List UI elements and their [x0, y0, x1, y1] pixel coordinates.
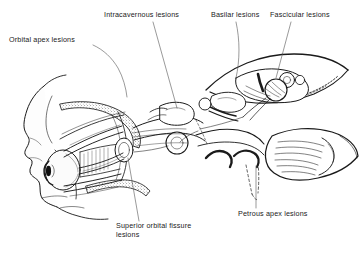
label-intracavernous-lesions: Intracavernous lesions — [104, 11, 179, 20]
label-orbital-apex-lesions: Orbital apex lesions — [9, 36, 75, 45]
petrous-apex — [196, 120, 264, 200]
label-superior-orbital-fissure-lesions: Superior orbital fissure lesions — [116, 222, 191, 239]
optic-nerve — [79, 153, 124, 174]
label-basilar-lesions: Basilar lesions — [211, 11, 260, 20]
head-profile — [24, 75, 108, 219]
label-petrous-apex-lesions: Petrous apex lesions — [238, 210, 308, 219]
cerebellum — [265, 129, 358, 181]
leader-intracavernous — [153, 22, 177, 108]
leader-basilar — [236, 22, 239, 78]
label-fascicular-lesions: Fascicular lesions — [270, 11, 330, 20]
brainstem — [199, 54, 348, 121]
anatomical-figure: Orbital apex lesions Intracavernous lesi… — [0, 0, 359, 255]
leader-orbital-apex — [93, 45, 127, 97]
cavernous-sinus — [133, 102, 205, 154]
